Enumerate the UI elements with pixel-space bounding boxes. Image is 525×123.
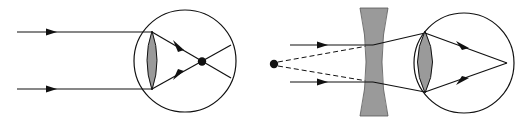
- focus-point-left: [198, 57, 206, 65]
- refracted-ray-bottom-left: [152, 45, 231, 89]
- arrow-icon: [317, 79, 328, 86]
- right-panel-corrected-eye: [270, 8, 514, 116]
- arrow-icon: [46, 86, 57, 93]
- dashed-extension-bottom: [278, 66, 373, 82]
- concave-corrective-lens: [360, 8, 388, 116]
- arrow-icon: [317, 42, 328, 49]
- left-panel-myopic-eye: [17, 10, 236, 112]
- eye-lens-left: [147, 31, 157, 90]
- arrow-icon: [173, 69, 184, 80]
- arrow-icon: [46, 29, 57, 36]
- myopia-diagram: [0, 0, 525, 123]
- refracted-ray-top-left: [152, 32, 231, 78]
- dashed-extension-top: [278, 45, 373, 62]
- virtual-source-point: [270, 60, 278, 68]
- arrow-icon: [173, 40, 184, 52]
